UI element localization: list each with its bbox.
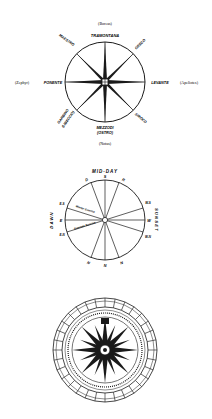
ornate-compass-figure (0, 295, 212, 410)
point-wn-label: W-N (145, 235, 152, 239)
point-es-label: E-S (59, 202, 64, 206)
siroco-label: SIROCO (134, 112, 148, 124)
mezzodi-label: MEZZODI (96, 126, 114, 130)
notus-caption: (Notus) (0, 140, 212, 150)
point-n-right-label: N (120, 261, 124, 266)
ponente-label: PONENTE (44, 81, 63, 85)
point-r-label: R (121, 178, 125, 183)
wind-rose-figure: (Boreas) TRAMONTANA MAESTRO GRECO (Zephy… (0, 0, 212, 140)
point-d-label: D (85, 178, 89, 183)
ostro-label: (OSTRO) (97, 131, 114, 135)
sun-compass-figure: MID-DAY S D R E-S E-N W-S W-N E W N N N … (0, 160, 212, 270)
point-e-label: E (60, 219, 63, 223)
point-w-label: W (147, 219, 151, 223)
tramontana-label: TRAMONTANA (91, 33, 119, 38)
greek-south-label: (Notus) (99, 141, 112, 146)
levante-label: LEVANTE (151, 81, 169, 85)
dawn-label: DAWN (49, 211, 54, 229)
winter-sunrise-label: Winter Sunrise (75, 204, 95, 214)
greco-label: GRECO (134, 38, 146, 50)
point-n-left-label: N (86, 261, 90, 266)
point-en-label: E-N (59, 233, 65, 237)
ornate-compass-rose (0, 295, 212, 410)
greek-north-label: (Boreas) (98, 21, 112, 26)
mid-day-label: MID-DAY (92, 169, 118, 174)
sunset-label: SUNSET (154, 208, 159, 232)
point-ws-label: W-S (145, 201, 151, 205)
summer-sunrise-label: Summer Sunrise (73, 220, 96, 230)
greek-east-label: (Apeliotes) (180, 80, 199, 85)
point-n-label: N (104, 264, 107, 268)
wind-rose-diagram: (Boreas) TRAMONTANA MAESTRO GRECO (Zephy… (0, 0, 212, 140)
greek-west-label: (Zephyr) (15, 80, 30, 85)
maestro-label: MAESTRO (58, 33, 75, 47)
sun-compass-diagram: MID-DAY S D R E-S E-N W-S W-N E W N N N … (0, 160, 212, 270)
point-s-label: S (104, 175, 107, 179)
